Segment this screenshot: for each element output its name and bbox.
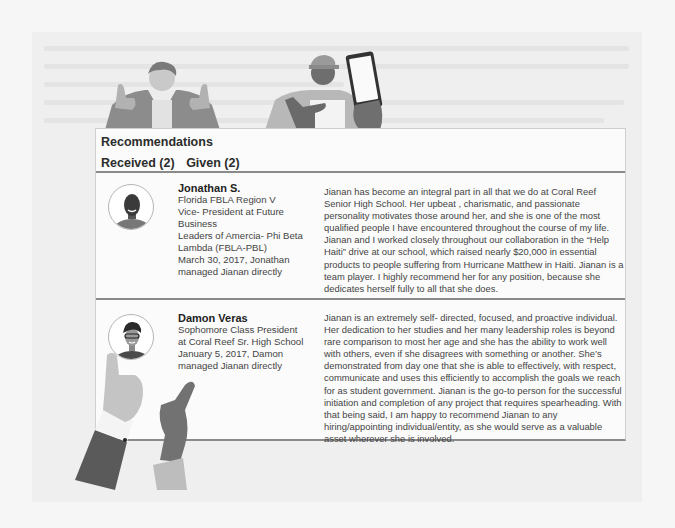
person-avatar-icon bbox=[109, 185, 154, 230]
recommender-detail: Leaders of Amercia- Phi Beta bbox=[178, 230, 318, 242]
recommender-info: Jonathan S. Florida FBLA Region V Vice- … bbox=[178, 182, 318, 278]
recommender-detail: managed Jianan directly bbox=[178, 266, 318, 278]
recommender-detail: Vice- President at Future Business bbox=[178, 206, 318, 230]
card-title: Recommendations bbox=[101, 135, 625, 149]
thumbs-up-man-illustration bbox=[100, 60, 225, 130]
card-header: Recommendations Received (2) Given (2) bbox=[96, 129, 625, 173]
recommender-detail: Florida FBLA Region V bbox=[178, 194, 318, 206]
tab-given[interactable]: Given (2) bbox=[186, 156, 240, 170]
avatar-jonathan[interactable] bbox=[108, 184, 154, 230]
recommender-name[interactable]: Jonathan S. bbox=[178, 182, 318, 194]
recommender-detail: Lambda (FBLA-PBL) bbox=[178, 242, 318, 254]
tab-bar: Received (2) Given (2) bbox=[101, 156, 625, 170]
recommendation-item: Jonathan S. Florida FBLA Region V Vice- … bbox=[96, 173, 625, 298]
recommender-name[interactable]: Damon Veras bbox=[178, 312, 318, 324]
recommendation-text: Jianan has become an integral part in al… bbox=[324, 186, 624, 295]
recommender-detail: at Coral Reef Sr. High School bbox=[178, 336, 318, 348]
thumbs-up-hands-illustration bbox=[35, 350, 205, 500]
recommender-detail: Sophomore Class President bbox=[178, 324, 318, 336]
phone-man-illustration bbox=[255, 45, 390, 130]
tab-received[interactable]: Received (2) bbox=[101, 156, 175, 170]
recommendation-text: Jianan is an extremely self- directed, f… bbox=[324, 312, 624, 445]
recommender-detail: March 30, 2017, Jonathan bbox=[178, 254, 318, 266]
